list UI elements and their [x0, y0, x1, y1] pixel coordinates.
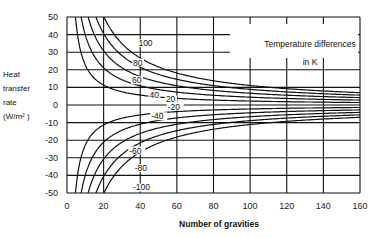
curve-dT--20: [75, 108, 360, 194]
x-tick-label: 0: [64, 201, 69, 211]
x-tick-label: 100: [243, 201, 258, 211]
y-axis-label-line1: Heat: [3, 68, 30, 82]
y-tick-label: -50: [45, 188, 58, 198]
y-tick-label: -40: [45, 170, 58, 180]
x-tick-label: 140: [316, 201, 331, 211]
curve-label: -80: [135, 163, 148, 173]
x-tick-label: 60: [172, 201, 182, 211]
legend: Temperature differences in K: [240, 35, 378, 71]
x-tick-label: 120: [279, 201, 294, 211]
curve-label: -60: [129, 146, 142, 156]
y-tick-label: -10: [45, 118, 58, 128]
y-tick-label: 30: [48, 47, 58, 57]
y-tick-label: 50: [48, 12, 58, 22]
x-tick-label: 80: [208, 201, 218, 211]
y-tick-label: 20: [48, 65, 58, 75]
x-axis-label: Number of gravities: [0, 219, 378, 229]
curve-label: 100: [138, 38, 152, 48]
y-axis-label: Heat transfer rate (W/m² ): [3, 68, 30, 124]
x-tick-label: 160: [352, 201, 367, 211]
y-tick-label: -30: [45, 153, 58, 163]
y-tick-label: -20: [45, 135, 58, 145]
y-axis-label-line4: (W/m² ): [3, 110, 30, 124]
curve-label: -100: [133, 182, 150, 192]
y-axis-label-line2: transfer: [3, 82, 30, 96]
x-tick-label: 20: [99, 201, 109, 211]
curve-label: -20: [168, 102, 181, 112]
curve-label: 60: [132, 75, 142, 85]
y-tick-label: 0: [53, 100, 58, 110]
legend-title: Temperature differences: [240, 35, 378, 53]
x-tick-label: 40: [135, 201, 145, 211]
curve-label: 80: [133, 58, 143, 68]
curve-label: -40: [151, 111, 164, 121]
curve-label: 40: [149, 90, 159, 100]
y-tick-label: 10: [48, 82, 58, 92]
legend-unit: in K: [240, 53, 378, 71]
y-tick-label: 40: [48, 30, 58, 40]
y-axis-label-line3: rate: [3, 96, 30, 110]
